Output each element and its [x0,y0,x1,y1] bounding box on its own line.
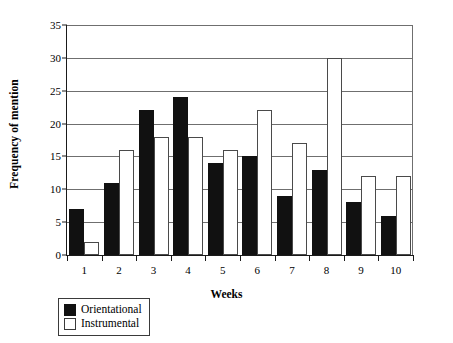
x-tick-mark [136,255,137,261]
y-axis-title: Frequency of mention [8,34,20,234]
x-tick-label: 5 [220,264,226,276]
bar-orientational [242,156,257,255]
bar-instrumental [84,242,99,255]
y-tick-label: 0 [56,249,62,261]
x-tick-mark [344,255,345,261]
bar-orientational [381,216,396,255]
bar-instrumental [119,150,134,255]
bar-chart-figure: Frequency of mention 05101520253035 1234… [0,0,453,343]
y-tick-label: 10 [50,183,61,195]
legend: Orientational Instrumental [58,298,150,336]
y-tick-label: 15 [50,150,61,162]
bar-orientational [312,170,327,255]
y-tick-label: 5 [56,216,62,228]
x-tick-mark [240,255,241,261]
bar-instrumental [292,143,307,255]
bar-orientational [277,196,292,255]
legend-swatch-filled-icon [64,304,76,316]
x-tick-label: 10 [390,264,401,276]
plot-area: 05101520253035 12345678910 [66,25,413,256]
bar-instrumental [257,110,272,255]
bar-group [276,25,307,255]
bar-group [138,25,169,255]
bar-orientational [139,110,154,255]
x-tick-mark [309,255,310,261]
legend-label: Instrumental [81,317,139,330]
bar-groups [67,25,413,255]
x-tick-mark [102,255,103,261]
bar-instrumental [223,150,238,255]
x-tick-label: 7 [289,264,295,276]
bar-group [380,25,411,255]
bar-instrumental [327,58,342,255]
bar-group [69,25,100,255]
bar-group [173,25,204,255]
y-tick-label: 20 [50,118,61,130]
x-tick-label: 3 [151,264,157,276]
x-tick-label: 9 [358,264,364,276]
bar-group [103,25,134,255]
legend-item-instrumental: Instrumental [64,317,142,330]
legend-label: Orientational [81,303,142,316]
x-tick-label: 4 [185,264,191,276]
bar-group [242,25,273,255]
legend-swatch-outline-icon [64,318,76,330]
y-tick-label: 30 [50,52,61,64]
y-tick-label: 35 [50,19,61,31]
x-tick-mark [275,255,276,261]
legend-item-orientational: Orientational [64,303,142,316]
x-tick-mark [171,255,172,261]
bar-group [207,25,238,255]
x-tick-mark [413,255,414,261]
bar-orientational [346,202,361,255]
x-tick-label: 1 [82,264,88,276]
x-tick-mark [378,255,379,261]
x-tick-label: 8 [324,264,330,276]
y-tick-label: 25 [50,85,61,97]
bar-group [346,25,377,255]
x-tick-mark [205,255,206,261]
bar-orientational [69,209,84,255]
bar-orientational [173,97,188,255]
x-tick-mark [67,255,68,261]
bar-instrumental [188,137,203,255]
bar-instrumental [154,137,169,255]
bar-orientational [104,183,119,255]
bar-group [311,25,342,255]
bar-instrumental [396,176,411,255]
bar-orientational [208,163,223,255]
x-tick-label: 6 [255,264,261,276]
bar-instrumental [361,176,376,255]
x-tick-label: 2 [116,264,122,276]
